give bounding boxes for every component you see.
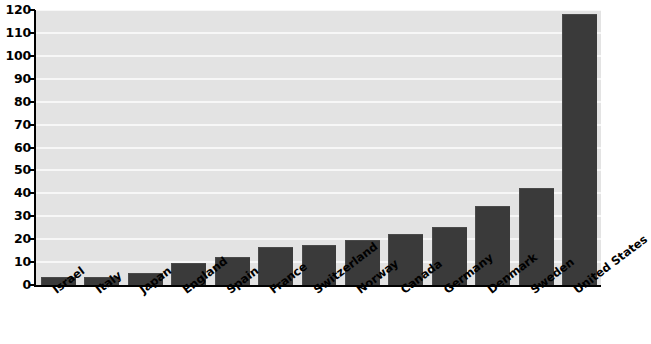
y-axis-tick-mark [30,9,35,11]
y-axis-tick-label: 70 [0,118,31,131]
y-axis-tick-mark [30,169,35,171]
y-axis-tick-mark [30,192,35,194]
y-axis-tick-label: 110 [0,27,31,40]
y-axis-tick-label: 80 [0,95,31,108]
y-axis-tick-mark [30,261,35,263]
y-axis-tick-label: 40 [0,187,31,200]
y-axis-tick-mark [30,55,35,57]
caption [0,333,634,344]
y-axis-tick-label: 20 [0,233,31,246]
y-axis-tick-label: 30 [0,210,31,223]
y-axis-tick-mark [30,32,35,34]
y-axis-tick-mark [30,124,35,126]
bar [562,14,597,285]
y-axis-tick-label: 50 [0,164,31,177]
y-axis-tick-mark [30,78,35,80]
y-axis-tick-mark [30,238,35,240]
y-axis-tick-mark [30,147,35,149]
y-axis-tick-label: 90 [0,73,31,86]
y-axis-tick-label: 0 [0,279,31,292]
y-axis-tick-label: 60 [0,141,31,154]
y-axis-tick-label: 100 [0,50,31,63]
y-axis-tick-label: 120 [0,4,31,17]
bars-layer [36,10,601,285]
y-axis-tick-mark [30,101,35,103]
y-axis-tick-mark [30,284,35,286]
y-axis-tick-mark [30,215,35,217]
y-axis: 0102030405060708090100110120 [0,0,31,344]
y-axis-tick-label: 10 [0,256,31,269]
